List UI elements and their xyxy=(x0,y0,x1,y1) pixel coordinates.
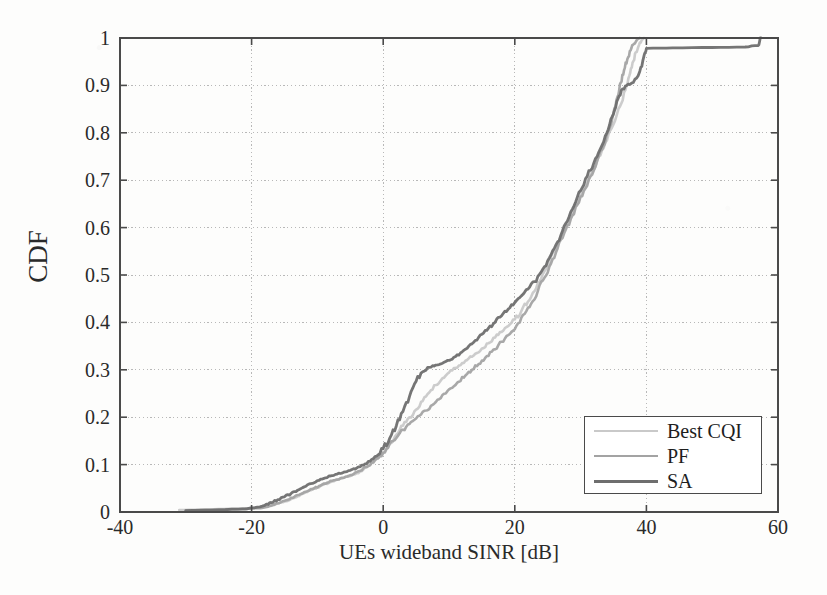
legend-swatch-pf xyxy=(594,455,658,457)
y-tick-label: 0.1 xyxy=(58,453,110,476)
y-tick-label: 0.8 xyxy=(58,121,110,144)
y-tick-label: 0.3 xyxy=(58,358,110,381)
y-tick-label: 0.5 xyxy=(58,264,110,287)
legend-label-best-cqi: Best CQI xyxy=(667,421,742,441)
x-tick-label: -20 xyxy=(238,516,265,539)
legend-label-pf: PF xyxy=(667,446,689,466)
y-tick-label: 0.2 xyxy=(58,406,110,429)
x-tick-label: 0 xyxy=(378,516,388,539)
y-tick-label: 0.7 xyxy=(58,169,110,192)
y-tick-label: 0.9 xyxy=(58,74,110,97)
legend-swatch-best-cqi xyxy=(594,430,658,432)
legend-label-sa: SA xyxy=(667,471,693,491)
y-tick-label: 1 xyxy=(58,27,110,50)
legend[interactable]: Best CQI PF SA xyxy=(584,416,762,494)
figure-page: CDF UEs wideband SINR [dB] 00.10.20.30.4… xyxy=(0,0,827,595)
x-tick-label: 40 xyxy=(636,516,656,539)
y-tick-label: 0 xyxy=(58,501,110,524)
x-axis-label-text: UEs wideband SINR [dB] xyxy=(120,540,778,565)
legend-swatch-sa xyxy=(594,480,658,483)
legend-item-sa[interactable]: SA xyxy=(585,468,761,494)
x-tick-label: -40 xyxy=(107,516,134,539)
x-tick-label: 20 xyxy=(505,516,525,539)
x-tick-label: 60 xyxy=(768,516,788,539)
y-tick-label: 0.6 xyxy=(58,216,110,239)
legend-item-pf[interactable]: PF xyxy=(585,443,761,469)
cdf-chart xyxy=(0,0,827,595)
y-tick-label: 0.4 xyxy=(58,311,110,334)
legend-item-best-cqi[interactable]: Best CQI xyxy=(585,418,761,444)
